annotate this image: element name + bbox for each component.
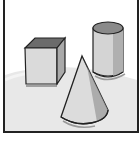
cylinder-shape: [93, 22, 125, 80]
illustration-frame: [3, 0, 139, 133]
cube-shape: [25, 38, 65, 86]
geometric-solids-illustration: [5, 0, 137, 131]
